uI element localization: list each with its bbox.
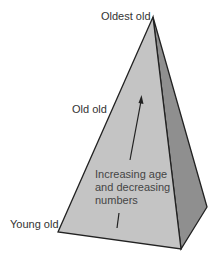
arrow-caption-line-3: numbers <box>95 194 170 207</box>
arrow-caption-line-1: Increasing age <box>95 168 170 181</box>
label-young-old: Young old <box>10 218 59 230</box>
label-oldest-old: Oldest old <box>101 10 151 22</box>
arrow-caption: Increasing age and decreasing numbers <box>95 168 170 207</box>
arrow-caption-line-2: and decreasing <box>95 181 170 194</box>
label-old-old: Old old <box>72 103 107 115</box>
